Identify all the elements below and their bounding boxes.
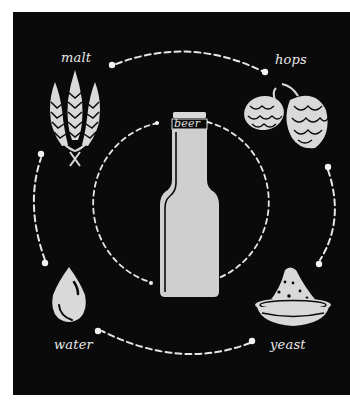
- label-malt: malt: [61, 50, 91, 65]
- label-yeast: yeast: [270, 337, 306, 352]
- bottle-label-beer: beer: [174, 117, 200, 130]
- cycle-dot: [42, 260, 48, 266]
- hop-cones-icon: [241, 84, 328, 148]
- cycle-dot: [262, 69, 268, 75]
- cycle-arc-water-to-malt: [34, 158, 45, 260]
- label-water: water: [54, 337, 93, 352]
- cycle-arc-hops-to-yeast: [320, 170, 335, 260]
- water-drop-icon: [52, 267, 86, 322]
- cycle-dot: [95, 328, 101, 334]
- label-hops: hops: [275, 52, 307, 67]
- beer-bottle-icon: [160, 112, 219, 297]
- cycle-dot: [109, 62, 115, 68]
- inner-arc-dot: [155, 121, 159, 125]
- cycle-dot: [249, 338, 255, 344]
- cycle-dot: [38, 151, 44, 157]
- cycle-arc-malt-to-hops: [116, 52, 262, 71]
- cycle-dot: [325, 164, 331, 170]
- cycle-arc-yeast-to-water: [102, 331, 250, 354]
- cycle-dot: [316, 261, 322, 267]
- yeast-bowl-icon: [255, 268, 331, 327]
- wheat-icon: [50, 70, 100, 166]
- inner-arc-left: [93, 123, 158, 282]
- inner-arc-dot: [149, 281, 153, 285]
